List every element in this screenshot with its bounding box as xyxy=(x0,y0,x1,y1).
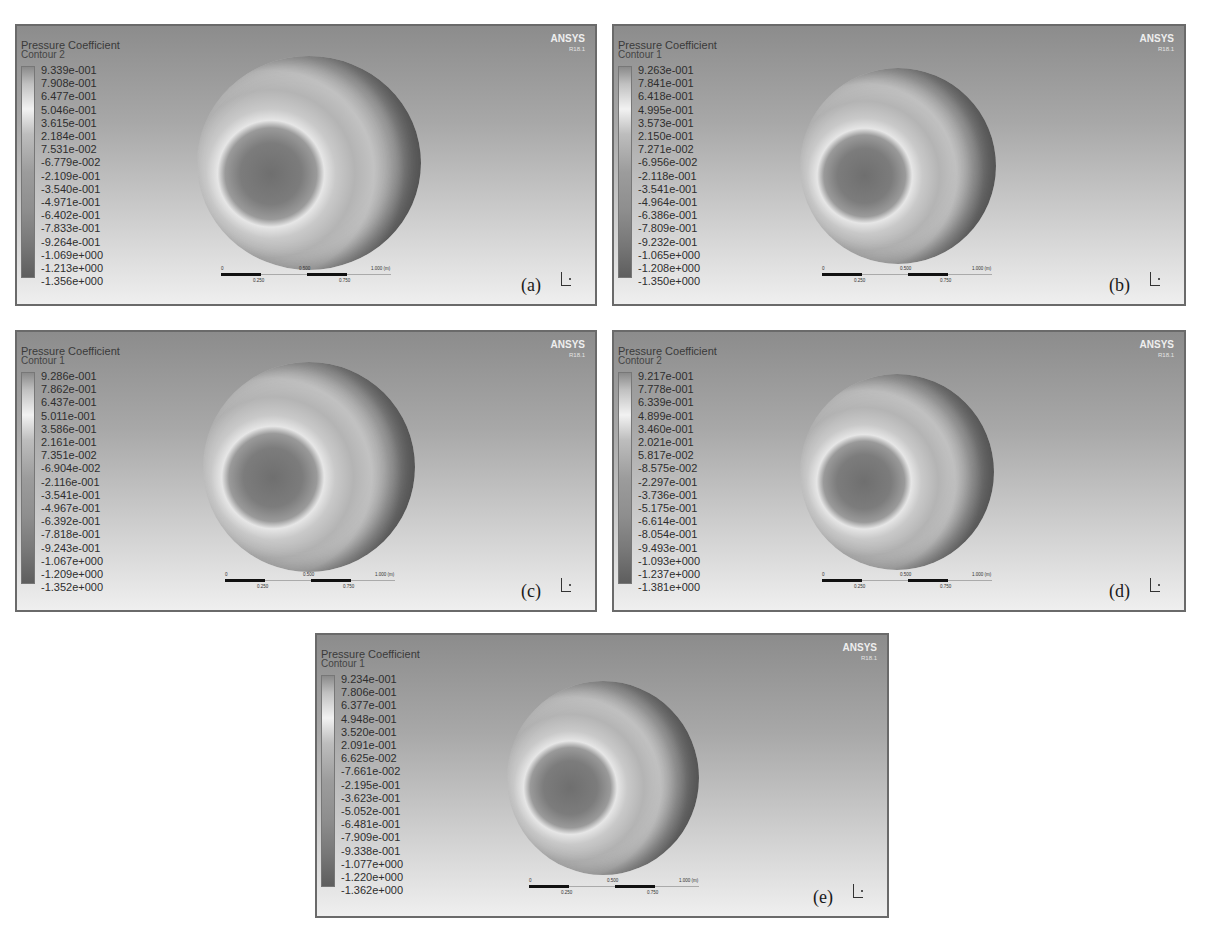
scale-tick-0-5: 0.500 xyxy=(900,266,911,271)
scale-tick-0-25: 0.250 xyxy=(854,278,865,283)
legend-value: -6.386e-001 xyxy=(638,209,700,222)
panel-label: (c) xyxy=(521,581,541,602)
legend-value: -9.493e-001 xyxy=(638,542,700,555)
legend-value: -2.116e-001 xyxy=(41,476,103,489)
contour-panel-e: Pressure Coefficient Contour 1 9.234e-00… xyxy=(315,633,889,918)
legend-value: -1.093e+000 xyxy=(638,555,700,568)
legend-value: -6.402e-001 xyxy=(41,209,103,222)
legend-value: -1.352e+000 xyxy=(41,581,103,594)
legend-value: 3.520e-001 xyxy=(341,726,403,739)
scale-segment xyxy=(822,273,862,276)
scale-tick-0-5: 0.500 xyxy=(303,572,314,577)
legend-value: 7.778e-001 xyxy=(638,383,700,396)
legend-value: 7.531e-002 xyxy=(41,143,103,156)
legend-value: 6.339e-001 xyxy=(638,396,700,409)
scale-tick-0-25: 0.250 xyxy=(561,890,572,895)
legend-value: 6.418e-001 xyxy=(638,90,700,103)
scale-segment xyxy=(221,273,261,276)
scale-segment xyxy=(822,579,862,582)
legend-value: -1.208e+000 xyxy=(638,262,700,275)
legend-value: -4.967e-001 xyxy=(41,502,103,515)
sphere-pressure-contour xyxy=(800,68,996,264)
axis-triad-icon xyxy=(1146,270,1162,288)
contour-panel-d: Pressure Coefficient Contour 2 9.217e-00… xyxy=(612,330,1186,612)
legend-value: 9.286e-001 xyxy=(41,370,103,383)
scale-tick-0-75: 0.750 xyxy=(940,278,951,283)
legend-value: 7.351e-002 xyxy=(41,449,103,462)
legend-value: -7.661e-002 xyxy=(341,765,403,778)
legend-value: 6.477e-001 xyxy=(41,90,103,103)
legend-value: -8.575e-002 xyxy=(638,462,700,475)
scale-tick-0-75: 0.750 xyxy=(647,890,658,895)
legend-value: 3.615e-001 xyxy=(41,117,103,130)
scale-tick-0-25: 0.250 xyxy=(257,584,268,589)
scale-tick-0: 0 xyxy=(822,266,825,271)
legend-value: -3.623e-001 xyxy=(341,792,403,805)
legend-value: 7.862e-001 xyxy=(41,383,103,396)
legend-contour-name: Contour 1 xyxy=(321,659,365,669)
scale-tick-0: 0 xyxy=(225,572,228,577)
scale-segment xyxy=(307,273,347,276)
scale-tick-1: 1.000 (m) xyxy=(371,266,390,271)
legend-value: -2.195e-001 xyxy=(341,779,403,792)
ansys-logo: ANSYS R18.1 xyxy=(1140,34,1174,54)
legend-value: -7.833e-001 xyxy=(41,222,103,235)
legend-value: -4.971e-001 xyxy=(41,196,103,209)
scale-tick-0-5: 0.500 xyxy=(607,878,618,883)
legend-value: -7.818e-001 xyxy=(41,528,103,541)
scale-segment xyxy=(615,885,655,888)
legend-value: 2.091e-001 xyxy=(341,739,403,752)
legend-value: -8.054e-001 xyxy=(638,528,700,541)
legend-value: 5.817e-002 xyxy=(638,449,700,462)
ansys-version: R18.1 xyxy=(551,44,585,54)
length-scale-bar: 0 0.500 1.000 (m) 0.250 0.750 xyxy=(820,266,1000,286)
legend-value: -3.540e-001 xyxy=(41,183,103,196)
legend-value: -7.809e-001 xyxy=(638,222,700,235)
legend-value: 7.841e-001 xyxy=(638,77,700,90)
sphere-pressure-contour xyxy=(800,374,994,570)
legend-value: -6.904e-002 xyxy=(41,462,103,475)
legend-values: 9.234e-0017.806e-0016.377e-0014.948e-001… xyxy=(341,673,403,897)
legend-value: -9.338e-001 xyxy=(341,845,403,858)
ansys-brand: ANSYS xyxy=(843,643,877,653)
legend-value: 3.573e-001 xyxy=(638,117,700,130)
scale-tick-0-5: 0.500 xyxy=(900,572,911,577)
legend-value: -6.779e-002 xyxy=(41,156,103,169)
legend-value: 7.271e-002 xyxy=(638,143,700,156)
sphere-pressure-contour xyxy=(507,681,699,875)
legend-value: 9.263e-001 xyxy=(638,64,700,77)
legend-value: -4.964e-001 xyxy=(638,196,700,209)
legend-value: -9.264e-001 xyxy=(41,236,103,249)
panel-label: (e) xyxy=(813,887,833,908)
legend-value: 4.995e-001 xyxy=(638,104,700,117)
ansys-version: R18.1 xyxy=(1140,350,1174,360)
scale-tick-0-25: 0.250 xyxy=(253,278,264,283)
legend-value: -5.052e-001 xyxy=(341,805,403,818)
axis-triad-icon xyxy=(1146,576,1162,594)
legend-value: 2.161e-001 xyxy=(41,436,103,449)
legend-value: -6.614e-001 xyxy=(638,515,700,528)
scale-segment xyxy=(908,273,948,276)
scale-segment xyxy=(908,579,948,582)
legend-value: -3.736e-001 xyxy=(638,489,700,502)
legend-contour-name: Contour 2 xyxy=(21,50,65,60)
legend-value: 3.586e-001 xyxy=(41,423,103,436)
ansys-version: R18.1 xyxy=(1140,44,1174,54)
length-scale-bar: 0 0.500 1.000 (m) 0.250 0.750 xyxy=(223,572,403,592)
legend-value: -2.109e-001 xyxy=(41,170,103,183)
legend-value: 4.899e-001 xyxy=(638,410,700,423)
scale-tick-0: 0 xyxy=(822,572,825,577)
legend-value: -7.909e-001 xyxy=(341,831,403,844)
scale-tick-0-75: 0.750 xyxy=(940,584,951,589)
axis-triad-icon xyxy=(557,270,573,288)
color-scale-bar xyxy=(21,66,35,278)
legend-value: -1.209e+000 xyxy=(41,568,103,581)
legend-value: 2.184e-001 xyxy=(41,130,103,143)
legend-value: -2.118e-001 xyxy=(638,170,700,183)
legend-value: -2.297e-001 xyxy=(638,476,700,489)
sphere-pressure-contour xyxy=(197,56,421,270)
legend-value: 5.011e-001 xyxy=(41,410,103,423)
length-scale-bar: 0 0.500 1.000 (m) 0.250 0.750 xyxy=(219,266,399,286)
legend-value: -1.077e+000 xyxy=(341,858,403,871)
legend-contour-name: Contour 1 xyxy=(21,356,65,366)
